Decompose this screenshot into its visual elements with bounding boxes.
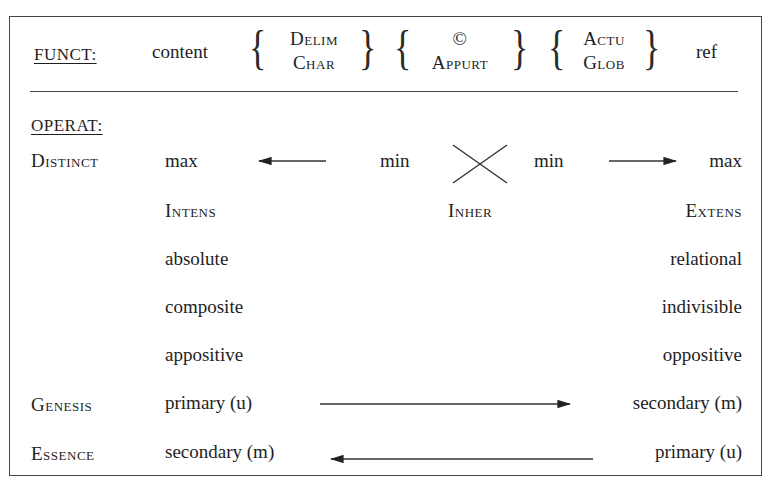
cross-icon <box>453 145 507 183</box>
arrows-layer <box>0 0 771 487</box>
